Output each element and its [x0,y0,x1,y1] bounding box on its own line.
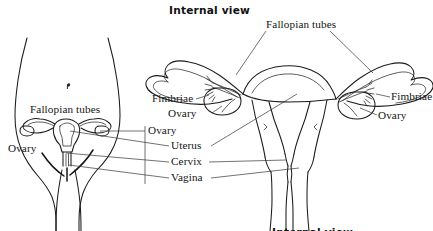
diagram-artwork [0,0,433,231]
leader-vagina-left [69,165,169,178]
label-ovary-right-figure-left: Ovary [168,108,196,119]
label-ovary-left-figure: Ovary [8,143,36,154]
leader-fallopian-tubes-right-left [236,31,266,75]
label-vagina: Vagina [171,172,203,183]
leader-cervix-right [209,160,286,162]
leader-vagina-right [211,168,299,178]
label-ovary-center: Ovary [148,125,176,136]
torso-outline [15,38,120,231]
leader-cervix-left [66,153,169,162]
leader-ovary-left [212,106,222,113]
title-internal-view-top: Internal view [169,4,250,16]
leader-fimbriae-left [196,95,209,99]
anatomy-diagram-canvas: Internal view Internal view Fallopian tu… [0,0,433,231]
leader-fallopian-tubes-right-right [330,31,373,73]
label-ovary-right-figure-right: Ovary [378,110,406,121]
label-fimbriae-left: Fimbriae [152,93,193,104]
leader-lines [66,31,390,184]
label-fimbriae-right: Fimbriae [391,91,432,102]
leader-fimbriae-right [376,94,390,97]
label-cervix: Cervix [171,156,202,167]
label-uterus: Uterus [171,140,201,151]
title-internal-view-bottom: Internal view [272,226,353,231]
label-fallopian-tubes-left: Fallopian tubes [30,104,100,115]
label-fallopian-tubes-right: Fallopian tubes [266,19,336,30]
